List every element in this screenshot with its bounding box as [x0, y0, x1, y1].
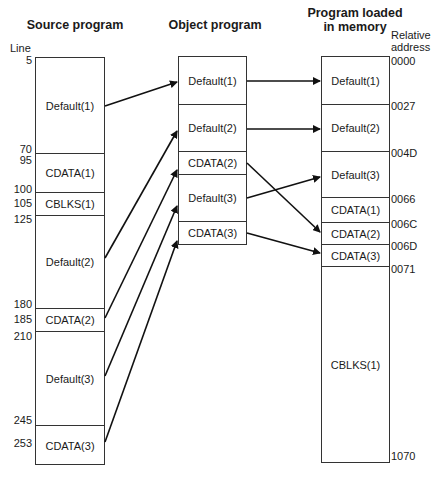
arrow-source-default3-to-object	[105, 206, 177, 376]
mapping-arrows	[0, 0, 436, 478]
arrow-object-default3-to-memory	[247, 177, 320, 198]
arrow-object-cdata2-to-memory	[247, 163, 320, 232]
arrow-object-cdata3-to-memory	[247, 233, 320, 253]
arrow-source-default1-to-object	[105, 82, 177, 106]
arrow-source-cdata2-to-object	[105, 170, 177, 318]
arrow-source-cdata3-to-object	[105, 241, 177, 442]
arrow-source-default2-to-object	[105, 131, 177, 258]
